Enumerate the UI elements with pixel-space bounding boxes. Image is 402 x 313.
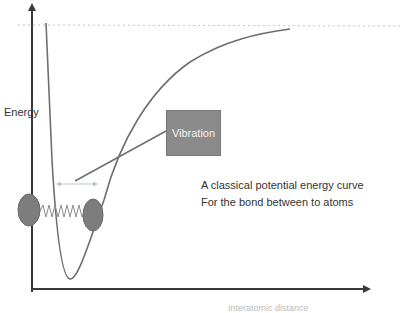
vibration-callout-box: Vibration: [166, 110, 221, 156]
atom-left: [18, 194, 40, 226]
caption-line-2: For the bond between to atoms: [201, 194, 364, 211]
callout-pointer-line: [75, 131, 166, 181]
spring: [40, 205, 85, 217]
vibration-arrow-right-head: [93, 182, 98, 187]
x-axis-label: Interatomic distance: [228, 303, 309, 313]
x-axis-arrowhead: [363, 285, 371, 293]
y-axis-label: Energy: [4, 106, 39, 118]
atom-right: [83, 199, 103, 231]
caption-line-1: A classical potential energy curve: [201, 177, 364, 194]
dissociation-energy-line: [18, 25, 402, 26]
potential-energy-diagram: [0, 0, 402, 313]
vibration-arrow-left-head: [56, 182, 61, 187]
y-axis-arrowhead: [28, 3, 36, 11]
vibration-callout-label: Vibration: [172, 127, 215, 139]
diagram-caption: A classical potential energy curve For t…: [201, 177, 364, 211]
